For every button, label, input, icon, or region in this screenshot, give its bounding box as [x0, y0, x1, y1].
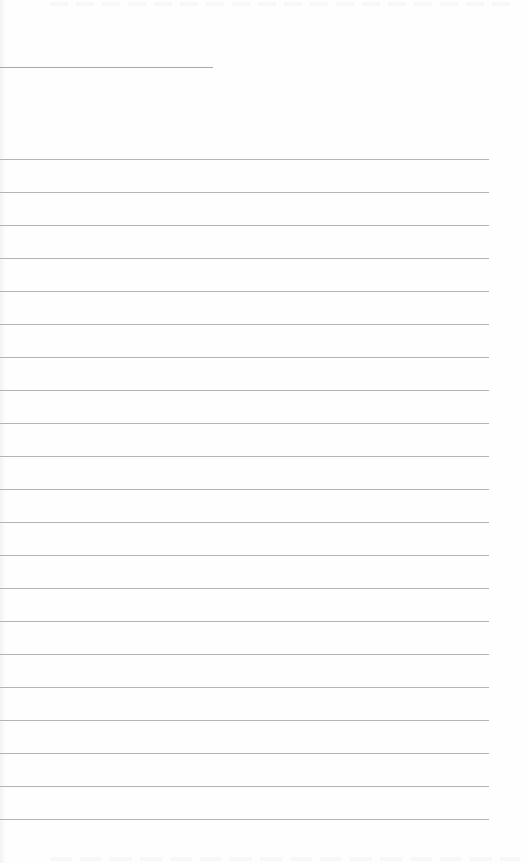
writing-line [0, 522, 489, 523]
writing-line [0, 786, 489, 787]
writing-line [0, 489, 489, 490]
ruled-page [0, 0, 527, 863]
writing-line [0, 753, 489, 754]
writing-line [0, 588, 489, 589]
writing-line [0, 258, 489, 259]
writing-line [0, 357, 489, 358]
writing-line [0, 324, 489, 325]
writing-line [0, 291, 489, 292]
writing-line [0, 621, 489, 622]
writing-line [0, 225, 489, 226]
bleed-through-text-top [50, 2, 510, 6]
writing-line [0, 423, 489, 424]
writing-line [0, 687, 489, 688]
writing-line [0, 555, 489, 556]
bleed-through-text-bottom [50, 857, 520, 861]
writing-line [0, 720, 489, 721]
writing-line [0, 819, 489, 820]
page-edge-shadow [0, 0, 6, 863]
writing-line [0, 390, 489, 391]
writing-line [0, 159, 489, 160]
writing-line [0, 192, 489, 193]
writing-line [0, 654, 489, 655]
writing-line [0, 456, 489, 457]
header-underline [0, 67, 213, 68]
